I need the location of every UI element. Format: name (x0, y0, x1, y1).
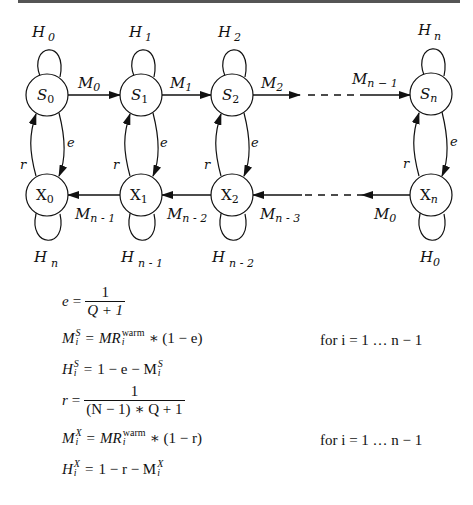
node-xn: Xn (410, 174, 452, 216)
edge-label-e-1: e (160, 135, 168, 150)
eq-ms-condition: for i = 1 … n − 1 (320, 332, 422, 349)
eq-ms-lhs: M (62, 330, 75, 347)
self-loop-s0 (38, 50, 61, 77)
edge-label-mn-3: Mn - 3 (259, 205, 300, 225)
loop-label-x2: Hn - 2 (211, 248, 254, 270)
edge-label-e-n: e (450, 134, 458, 149)
equation-r: r = 1 (N − 1) ∗ Q + 1 (62, 384, 185, 417)
self-loop-x0 (35, 214, 61, 240)
eq-hs-rhs-scripts: Si (158, 359, 163, 377)
eq-hs-lhs: H (62, 361, 73, 378)
equation-hs: H Si = 1 − e − M Si (62, 360, 163, 378)
eq-ms-scripts: Si (76, 328, 81, 346)
node-sn: Sn (410, 73, 452, 115)
edge-label-m1: M1 (169, 74, 192, 94)
eq-r-lhs: r (62, 392, 68, 409)
eq-ms-equals: = (86, 330, 94, 347)
self-loop-s1 (132, 50, 155, 77)
eq-ms-rhs-tail: ∗ (1 − e) (148, 329, 202, 347)
edge-e-1 (153, 113, 158, 176)
loop-label-s1: H1 (128, 23, 152, 44)
equation-hx: H Xi = 1 − r − M Xi (62, 460, 163, 478)
edge-label-m0: M0 (77, 74, 100, 94)
loop-label-xn: H0 (419, 248, 440, 269)
eq-r-denominator: (N − 1) ∗ Q + 1 (84, 400, 184, 417)
node-x2: X2 (211, 174, 253, 216)
node-s1: S1 (120, 74, 162, 116)
loop-label-s0: H0 (31, 23, 55, 44)
eq-e-numerator: 1 (99, 285, 111, 301)
edge-label-r-0: r (20, 157, 27, 172)
edge-e-n (442, 112, 447, 176)
equation-ms: M Si = MR warmi ∗ (1 − e) (62, 329, 202, 347)
loop-label-x1: Hn - 1 (120, 248, 163, 270)
node-s2: S2 (211, 74, 253, 116)
self-loop-x1 (129, 214, 155, 240)
loop-label-x0: Hn (33, 248, 58, 270)
self-loop-s2 (223, 50, 246, 77)
edge-r-1 (125, 114, 130, 176)
eq-mx-equals: = (87, 430, 95, 447)
eq-ms-mr: MR (99, 330, 121, 347)
edge-label-e-0: e (67, 135, 75, 150)
eq-mx-mr: MR (100, 430, 122, 447)
eq-e-fraction: 1 Q + 1 (85, 285, 125, 318)
eq-hx-lhs: H (62, 461, 73, 478)
node-x1: X1 (120, 174, 162, 216)
eq-r-fraction: 1 (N − 1) ∗ Q + 1 (84, 384, 184, 417)
edge-label-r-n: r (403, 156, 410, 171)
edge-label-mn-1: Mn − 1 (351, 70, 398, 90)
eq-mx-mr-scripts: warmi (123, 428, 146, 446)
eq-hx-rhs: 1 − r − M (98, 461, 156, 478)
eq-e-lhs: e (62, 293, 69, 310)
edge-e-0 (59, 113, 64, 176)
edge-r-2 (216, 114, 221, 176)
edge-r-n (414, 113, 419, 176)
edge-label-mn-1-bottom: Mn - 1 (74, 205, 115, 225)
eq-hs-scripts: Si (74, 359, 79, 377)
edge-label-r-1: r (113, 157, 120, 172)
eq-hs-rhs: 1 − e − M (97, 361, 156, 378)
edge-label-m0-bottom: M0 (373, 205, 396, 225)
self-loop-sn (422, 49, 445, 76)
eq-r-equals: = (72, 392, 80, 409)
edge-r-0 (31, 114, 36, 176)
eq-ms-mr-scripts: warmi (122, 328, 145, 346)
eq-mx-scripts: Xi (76, 428, 82, 446)
loop-label-sn: Hn (417, 21, 441, 43)
eq-mx-condition: for i = 1 … n − 1 (320, 432, 422, 449)
edge-label-e-2: e (251, 135, 259, 150)
edge-label-r-2: r (204, 157, 211, 172)
equation-e: e = 1 Q + 1 (62, 285, 125, 318)
eq-hs-equals: = (84, 361, 92, 378)
eq-r-numerator: 1 (129, 384, 141, 400)
eq-e-denominator: Q + 1 (85, 301, 125, 318)
eq-hx-scripts: Xi (74, 459, 80, 477)
node-s0: S0 (26, 74, 68, 116)
self-loop-xn (419, 214, 445, 240)
self-loop-x2 (220, 214, 246, 240)
edge-label-mn-2: Mn - 2 (166, 205, 207, 225)
equation-mx: M Xi = MR warmi ∗ (1 − r) (62, 429, 202, 447)
markov-chain-diagram: H0 H1 H2 Hn M0 M1 M2 Mn − 1 e r e r e r … (0, 0, 473, 285)
edge-label-m2: M2 (260, 74, 283, 94)
eq-mx-rhs-tail: ∗ (1 − r) (150, 429, 202, 447)
edge-e-2 (244, 113, 249, 176)
loop-label-s2: H2 (217, 23, 241, 44)
eq-e-equals: = (73, 293, 81, 310)
eq-hx-equals: = (85, 461, 93, 478)
node-x0: X0 (26, 174, 68, 216)
eq-hx-rhs-scripts: Xi (157, 459, 163, 477)
eq-mx-lhs: M (62, 430, 75, 447)
